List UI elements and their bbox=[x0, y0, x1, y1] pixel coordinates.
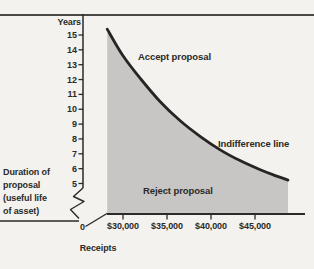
x-tick-label-45000: $45,000 bbox=[229, 221, 281, 231]
indifference-line-label: Indifference line bbox=[218, 139, 289, 149]
duration-annotation: Duration of proposal (useful life of ass… bbox=[3, 166, 50, 218]
y-tick-label-15: 15 bbox=[48, 30, 77, 40]
y-tick-label-5: 5 bbox=[48, 179, 77, 189]
y-tick-label-7: 7 bbox=[48, 149, 77, 159]
annotation-line-4: of asset) bbox=[3, 205, 50, 218]
y-tick-label-14: 14 bbox=[48, 45, 77, 55]
y-axis-title: Years bbox=[46, 17, 81, 27]
annotation-line-3: (useful life bbox=[3, 192, 50, 205]
annotation-line-2: proposal bbox=[3, 179, 50, 192]
indifference-chart-figure: Years 56789101112131415 $30,000$35,000$4… bbox=[0, 0, 314, 269]
accept-proposal-label: Accept proposal bbox=[138, 52, 211, 62]
y-tick-label-8: 8 bbox=[48, 134, 77, 144]
x-axis-title: Receipts bbox=[72, 243, 124, 253]
origin-zero-label: 0 bbox=[77, 222, 88, 232]
y-tick-label-11: 11 bbox=[48, 89, 77, 99]
y-tick-label-12: 12 bbox=[48, 75, 77, 85]
y-tick-label-6: 6 bbox=[48, 164, 77, 174]
y-tick-label-10: 10 bbox=[48, 104, 77, 114]
y-tick-label-9: 9 bbox=[48, 119, 77, 129]
y-tick-label-13: 13 bbox=[48, 60, 77, 70]
y-axis-break-zigzag bbox=[71, 188, 85, 219]
annotation-line-1: Duration of bbox=[3, 166, 50, 179]
reject-proposal-label: Reject proposal bbox=[143, 186, 213, 196]
